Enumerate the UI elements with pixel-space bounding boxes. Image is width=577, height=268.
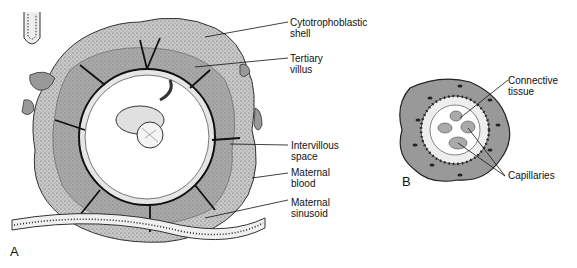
label-maternal-blood: Maternal blood (291, 167, 330, 189)
label-cytotrophoblastic-shell: Cytotrophoblastic shell (290, 17, 367, 39)
panel-label-a: A (10, 244, 19, 259)
figure: A B Cytotrophoblastic shell Tertiary vil… (0, 0, 577, 268)
villus-cross-section-icon (400, 79, 510, 181)
panel-label-b: B (402, 174, 411, 189)
label-tertiary-villus: Tertiary villus (290, 53, 323, 75)
uterine-gland-icon (24, 12, 40, 44)
label-maternal-sinusoid: Maternal sinusoid (291, 197, 330, 219)
label-capillaries: Capillaries (508, 170, 555, 181)
label-connective-tissue: Connective tissue (508, 75, 558, 97)
label-intervillous-space: Intervillous space (291, 140, 339, 162)
diagram-drawing (0, 0, 577, 268)
